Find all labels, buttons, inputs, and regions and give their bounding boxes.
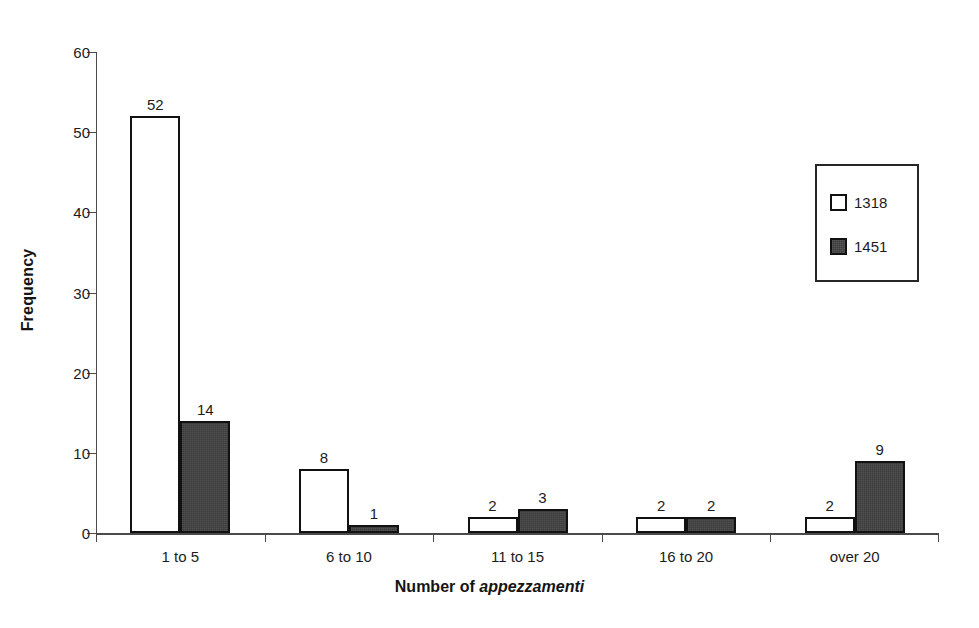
bar-1318-over-20[interactable]: 2 — [805, 517, 855, 533]
x-category-label: 16 to 20 — [659, 548, 713, 565]
x-tick-mark — [770, 533, 771, 542]
legend-box: 13181451 — [815, 164, 919, 282]
bar-value-label: 2 — [707, 497, 715, 514]
y-tick-label: 10 — [73, 444, 90, 461]
x-tick-mark — [433, 533, 434, 542]
bar-1451-over-20[interactable]: 9 — [855, 461, 905, 533]
bar-1318-16-to-20[interactable]: 2 — [636, 517, 686, 533]
legend-item-1451[interactable]: 1451 — [830, 224, 917, 268]
legend-label: 1451 — [854, 238, 887, 255]
plot-area: 0102030405060 521481232229 1 to 56 to 10… — [96, 52, 939, 533]
x-axis-title-plain: Number of — [395, 578, 475, 595]
y-tick-label: 60 — [73, 44, 90, 61]
bar-chart-figure: Frequency 0102030405060 521481232229 1 t… — [0, 0, 979, 628]
y-tick-label: 0 — [82, 525, 90, 542]
y-axis-title: Frequency — [19, 249, 37, 332]
y-tick-label: 30 — [73, 284, 90, 301]
x-tick-mark — [265, 533, 266, 542]
bar-1318-6-to-10[interactable]: 8 — [299, 469, 349, 533]
y-tick-label: 40 — [73, 204, 90, 221]
bar-value-label: 2 — [826, 497, 834, 514]
x-axis-line — [96, 533, 939, 535]
x-axis-title: Number of appezzamenti — [0, 578, 979, 596]
x-category-label: 11 to 15 — [491, 548, 544, 565]
x-tick-mark — [938, 533, 939, 542]
open-square-swatch — [830, 194, 847, 211]
bar-value-label: 14 — [197, 401, 214, 418]
bar-value-label: 3 — [538, 489, 546, 506]
x-category-label: over 20 — [830, 548, 880, 565]
bar-1451-1-to-5[interactable]: 14 — [180, 421, 230, 533]
x-axis-title-italic: appezzamenti — [479, 578, 584, 595]
bar-1318-11-to-15[interactable]: 2 — [468, 517, 518, 533]
legend-item-1318[interactable]: 1318 — [830, 180, 917, 224]
bar-value-label: 1 — [370, 505, 378, 522]
bar-value-label: 2 — [488, 497, 496, 514]
legend-label: 1318 — [854, 194, 887, 211]
filled-square-swatch — [830, 238, 847, 255]
bar-value-label: 9 — [876, 441, 884, 458]
bar-value-label: 52 — [147, 96, 164, 113]
bar-value-label: 2 — [657, 497, 665, 514]
x-category-label: 6 to 10 — [326, 548, 372, 565]
bar-value-label: 8 — [320, 449, 328, 466]
y-axis-line — [96, 52, 97, 533]
bar-1318-1-to-5[interactable]: 52 — [130, 116, 180, 533]
x-tick-mark — [96, 533, 97, 542]
x-tick-mark — [602, 533, 603, 542]
y-tick-label: 50 — [73, 124, 90, 141]
y-tick-label: 20 — [73, 364, 90, 381]
bar-1451-16-to-20[interactable]: 2 — [686, 517, 736, 533]
bar-1451-11-to-15[interactable]: 3 — [518, 509, 568, 533]
bar-1451-6-to-10[interactable]: 1 — [349, 525, 399, 533]
x-category-label: 1 to 5 — [162, 548, 200, 565]
